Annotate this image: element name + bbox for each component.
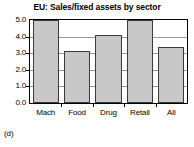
plot-area: [29, 19, 188, 104]
y-tick-label: 5.0: [0, 16, 26, 24]
bar-all: [158, 47, 184, 103]
x-tick-label: Retail: [124, 107, 155, 118]
bar-food: [64, 51, 90, 103]
y-tick-label: 0.0: [0, 99, 26, 107]
bar-slot: [127, 20, 153, 103]
bar-slot: [95, 20, 121, 103]
x-tick-label: All: [156, 107, 187, 118]
x-axis: MachFoodDrugRetailAll: [30, 107, 187, 121]
y-tick-label: 2.0: [0, 66, 26, 74]
bar-slot: [33, 20, 59, 103]
y-axis: 0.01.02.03.04.05.0: [0, 19, 26, 104]
chart-title: EU: Sales/fixed assets by sector: [0, 2, 194, 13]
y-tick-label: 3.0: [0, 49, 26, 57]
figure-caption: (d): [4, 129, 13, 139]
bar-series: [30, 20, 187, 103]
y-tick-label: 4.0: [0, 33, 26, 41]
bar-retail: [127, 20, 153, 103]
x-tick-label: Mach: [30, 107, 61, 118]
bar-slot: [64, 20, 90, 103]
bar-mach: [33, 20, 59, 103]
x-tick-label: Drug: [93, 107, 124, 118]
y-tick-label: 1.0: [0, 82, 26, 90]
chart-figure: EU: Sales/fixed assets by sector 0.01.02…: [0, 0, 194, 147]
x-tick-label: Food: [61, 107, 92, 118]
bar-slot: [158, 20, 184, 103]
bar-drug: [95, 35, 121, 103]
